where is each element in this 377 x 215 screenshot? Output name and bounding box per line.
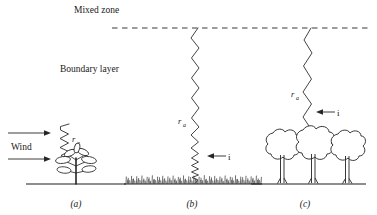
panel-b-flux-label: i xyxy=(228,152,231,162)
panel-c-caption: (c) xyxy=(300,199,311,210)
panel-c: r a i xyxy=(251,28,366,210)
tree-left xyxy=(266,129,301,183)
svg-text:a: a xyxy=(296,95,299,101)
tree-middle xyxy=(296,126,334,184)
mixed-zone-label: Mixed zone xyxy=(74,5,119,15)
wind-arrow-upper xyxy=(8,130,51,135)
panel-b-resistance-label: r a xyxy=(178,116,186,128)
wind-label: Wind xyxy=(11,142,32,152)
panel-b: r a i (b) xyxy=(124,28,262,210)
wind-arrow-lower xyxy=(8,156,51,161)
panel-a: Wind r a xyxy=(8,124,126,210)
tree-right xyxy=(331,130,366,183)
figure-root: Mixed zone Boundary layer Wind r xyxy=(0,0,377,215)
panel-c-resistance-zigzag xyxy=(303,28,312,140)
panel-b-flux-arrow xyxy=(207,153,226,158)
svg-text:r: r xyxy=(178,116,182,126)
panel-c-resistance-label: r a xyxy=(291,89,299,101)
panel-c-flux-arrow xyxy=(316,109,335,114)
svg-text:r: r xyxy=(72,134,76,144)
svg-text:a: a xyxy=(183,122,186,128)
boundary-layer-resistance-diagram: Mixed zone Boundary layer Wind r xyxy=(0,0,377,215)
panel-b-resistance-zigzag xyxy=(191,28,199,184)
panel-a-caption: (a) xyxy=(70,199,81,210)
panel-c-flux-label: i xyxy=(337,108,340,118)
boundary-layer-label: Boundary layer xyxy=(60,64,120,74)
panel-b-caption: (b) xyxy=(186,199,197,210)
svg-text:r: r xyxy=(291,89,295,99)
